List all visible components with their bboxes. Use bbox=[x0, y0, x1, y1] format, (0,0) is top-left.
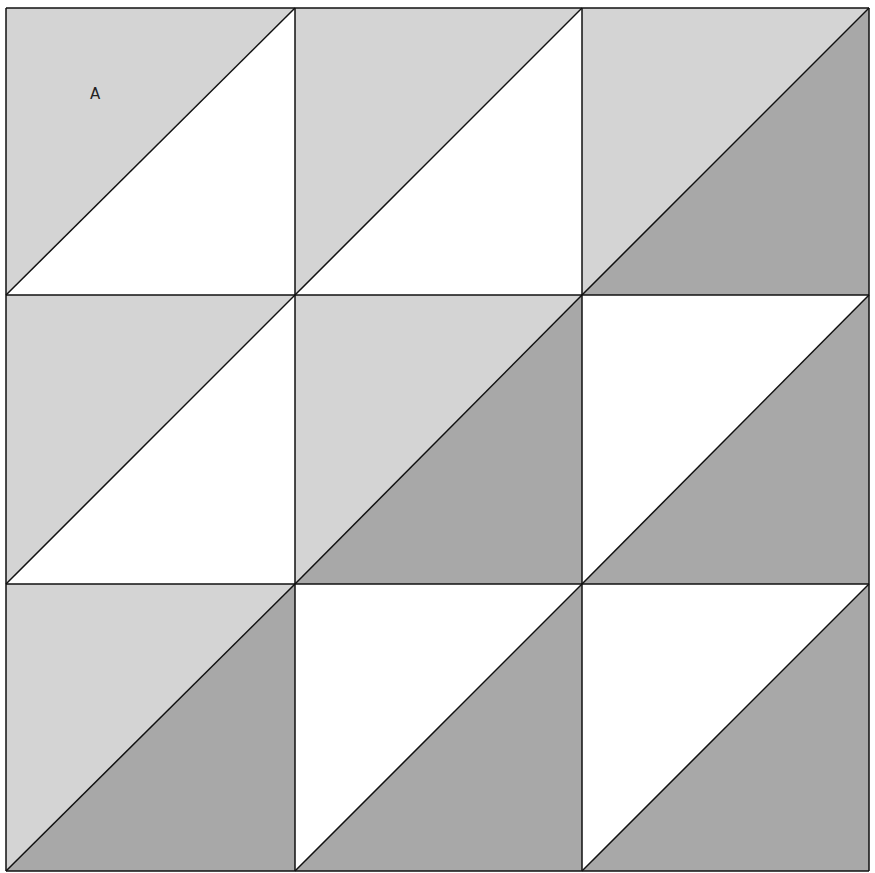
region-label: A bbox=[90, 85, 100, 103]
quilt-cell-r0-c0 bbox=[6, 8, 295, 295]
quilt-cell-r0-c1 bbox=[295, 8, 582, 295]
quilt-cell-r1-c0 bbox=[6, 295, 295, 584]
quilt-cell-r2-c2 bbox=[582, 584, 869, 871]
quilt-cell-r2-c0 bbox=[6, 584, 295, 871]
quilt-grid-diagram bbox=[0, 0, 875, 873]
quilt-cell-r0-c2 bbox=[582, 8, 869, 295]
quilt-cell-r2-c1 bbox=[295, 584, 582, 871]
quilt-cell-r1-c2 bbox=[582, 295, 869, 584]
quilt-cell-r1-c1 bbox=[295, 295, 582, 584]
